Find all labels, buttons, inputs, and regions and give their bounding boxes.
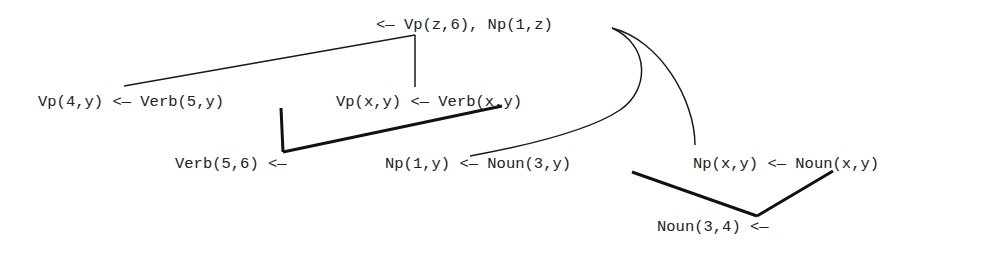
- node-np1: Np(1,y) <— Noun(3,y): [385, 155, 571, 173]
- node-noun: Noun(3,4) <—: [657, 218, 769, 236]
- edge-np1-noun: [632, 172, 757, 216]
- edge-goal-np2: [612, 28, 695, 145]
- node-vp2: Vp(x,y) <— Verb(x,y): [336, 93, 522, 111]
- diagram-edges: [0, 0, 985, 253]
- node-vp1: Vp(4,y) <— Verb(5,y): [38, 93, 224, 111]
- edge-goal-vp1: [124, 35, 415, 86]
- node-verb: Verb(5,6) <—: [175, 155, 287, 173]
- edge-goal-np1: [470, 28, 642, 156]
- edge-vp1-verb: [281, 108, 283, 152]
- node-np2: Np(x,y) <— Noun(x,y): [693, 155, 879, 173]
- edge-np2-noun: [757, 171, 833, 216]
- proof-tree-diagram: <— Vp(z,6), Np(1,z) Vp(4,y) <— Verb(5,y)…: [0, 0, 985, 253]
- edge-vp2-verb: [283, 106, 502, 152]
- node-goal: <— Vp(z,6), Np(1,z): [376, 16, 553, 34]
